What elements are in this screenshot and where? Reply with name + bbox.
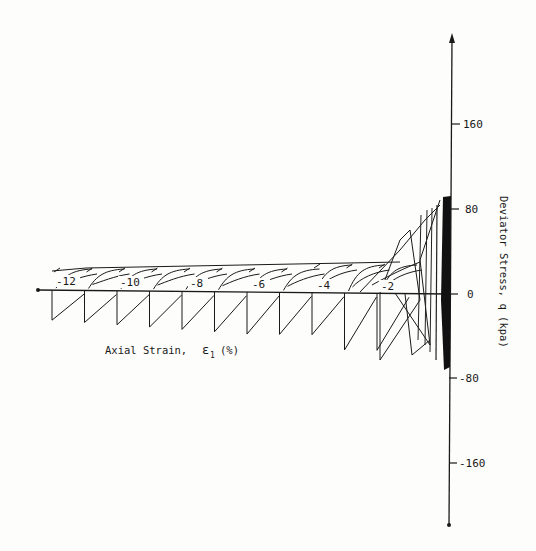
y-tick-neg160: -160 bbox=[459, 457, 486, 470]
y-tick-neg80: -80 bbox=[459, 372, 479, 385]
axis-end-dot bbox=[447, 523, 451, 527]
x-tick-neg6: -6 bbox=[252, 278, 265, 291]
x-axis-title: Axial Strain, ε 1 (%) bbox=[105, 343, 239, 360]
y-axis: 160 80 0 -80 -160 bbox=[447, 33, 486, 527]
y-tick-0: 0 bbox=[467, 288, 474, 301]
arrow-up-icon bbox=[449, 33, 455, 43]
x-axis-unit: (%) bbox=[220, 344, 239, 356]
x-tick-neg8: -8 bbox=[190, 277, 203, 290]
x-axis-title-text: Axial Strain, bbox=[105, 344, 187, 356]
y-tick-80: 80 bbox=[465, 203, 478, 216]
hysteresis-chart: 160 80 0 -80 -160 -12 -10 -8 -6 -4 -2 Ax… bbox=[0, 0, 536, 551]
x-tick-neg10: -10 bbox=[120, 276, 140, 289]
x-tick-neg4: -4 bbox=[317, 279, 331, 292]
axis-start-dot bbox=[36, 288, 40, 292]
x-axis-symbol: ε bbox=[202, 343, 209, 357]
y-axis-title: Deviator Stress, q (kpa) bbox=[498, 196, 510, 348]
x-tick-neg2: -2 bbox=[381, 280, 394, 293]
x-axis-subscript: 1 bbox=[210, 351, 215, 360]
y-tick-160: 160 bbox=[463, 118, 483, 131]
x-tick-neg12: -12 bbox=[56, 275, 76, 288]
